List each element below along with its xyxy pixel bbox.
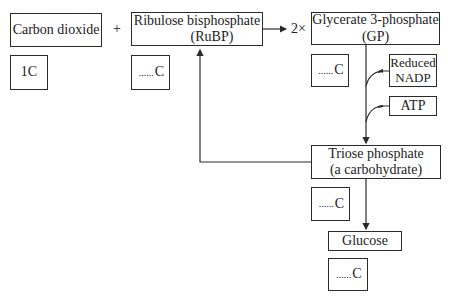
glucose-box: Glucose [328, 231, 402, 251]
carbon-dioxide-carbon-box: 1C [10, 55, 48, 90]
gp-abbrev: (GP) [362, 29, 389, 45]
gp-name: Glycerate 3-phosphate [312, 12, 438, 28]
rubp-carbon-unit: C [155, 64, 164, 80]
gp-carbon-input[interactable]: ...... C [311, 54, 349, 87]
glucose-label: Glucose [342, 233, 388, 249]
carbon-dioxide-label: Carbon dioxide [13, 22, 100, 38]
carbon-dioxide-carbon-count: 1C [21, 64, 37, 80]
glucose-carbon-unit: C [352, 266, 361, 282]
rubp-abbrev: (RuBP) [161, 29, 234, 45]
triose-carbon-unit: C [335, 196, 344, 212]
atp-box: ATP [389, 96, 437, 116]
arrow-atp-input [366, 106, 389, 122]
rubp-name: Ribulose bisphosphate [134, 13, 260, 29]
gp-carbon-unit: C [334, 62, 343, 78]
triose-description: (a carbohydrate) [330, 162, 422, 178]
glucose-carbon-input[interactable]: ...... C [328, 258, 368, 291]
glucose-carbon-blank: ...... [336, 269, 351, 281]
reduced-nadp-line2: NADP [395, 71, 430, 86]
gp-carbon-blank: ...... [318, 65, 333, 77]
plus-sign: + [113, 21, 121, 37]
triose-carbon-input[interactable]: ...... C [311, 187, 350, 221]
rubp-carbon-blank: ...... [139, 67, 154, 79]
arrow-triose-to-rubp [200, 50, 311, 162]
multiplier-label: 2× [291, 21, 306, 37]
triose-phosphate-box: Triose phosphate (a carbohydrate) [311, 145, 441, 179]
rubp-carbon-input[interactable]: ...... C [131, 55, 170, 90]
rubp-box: Ribulose bisphosphate (RuBP) [131, 12, 263, 46]
triose-name: Triose phosphate [328, 146, 424, 162]
atp-label: ATP [401, 98, 426, 114]
carbon-dioxide-box: Carbon dioxide [10, 13, 102, 47]
arrow-nadp-input [366, 71, 389, 86]
reduced-nadp-box: Reduced NADP [389, 54, 437, 87]
gp-box: Glycerate 3-phosphate (GP) [311, 12, 440, 45]
triose-carbon-blank: ...... [319, 198, 334, 210]
reduced-nadp-line1: Reduced [390, 56, 435, 71]
